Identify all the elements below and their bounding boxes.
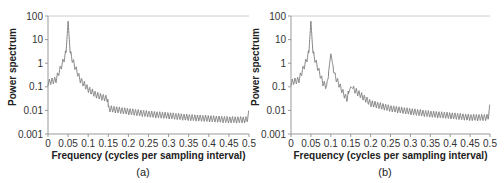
x-tick-label: 0.5	[242, 138, 256, 149]
y-tick-label: 0.01	[24, 105, 44, 116]
x-axis-label: Frequency (cycles per sampling interval)	[294, 150, 488, 161]
x-tick-label: 0.15	[99, 138, 119, 149]
x-tick-label: 0.3	[403, 138, 417, 149]
y-tick-label: 0.1	[272, 81, 286, 92]
x-tick-label: 0.05	[58, 138, 78, 149]
x-tick-label: 0.25	[381, 138, 401, 149]
y-tick-label: 10	[32, 34, 44, 45]
y-tick-label: 0.01	[267, 105, 287, 116]
y-axis-label: Power spectrum	[7, 28, 18, 106]
panel-caption: (b)	[378, 166, 391, 178]
x-tick-label: 0	[288, 138, 294, 149]
x-tick-label: 0.3	[162, 138, 176, 149]
y-tick-label: 0.1	[29, 81, 43, 92]
y-tick-label: 100	[269, 11, 286, 22]
x-tick-label: 0.45	[460, 138, 480, 149]
y-tick-label: 0.001	[261, 129, 286, 140]
figure: 0.0010.010.111010000.050.10.150.20.250.3…	[0, 0, 504, 183]
x-tick-label: 0.35	[179, 138, 199, 149]
spectrum-line	[291, 21, 490, 121]
x-tick-label: 0.1	[81, 138, 95, 149]
y-tick-label: 0.001	[18, 129, 43, 140]
x-tick-label: 0	[45, 138, 51, 149]
x-tick-label: 0.45	[219, 138, 239, 149]
spectrum-line	[48, 21, 249, 123]
x-tick-label: 0.15	[341, 138, 361, 149]
x-tick-label: 0.4	[202, 138, 216, 149]
x-tick-label: 0.5	[483, 138, 497, 149]
x-axis-label: Frequency (cycles per sampling interval)	[52, 150, 246, 161]
panel-caption: (a)	[136, 166, 149, 178]
y-tick-label: 1	[37, 58, 43, 69]
x-tick-label: 0.05	[301, 138, 321, 149]
x-tick-label: 0.25	[139, 138, 159, 149]
y-tick-label: 1	[280, 58, 286, 69]
y-tick-label: 100	[26, 11, 43, 22]
x-tick-label: 0.35	[421, 138, 441, 149]
x-tick-label: 0.1	[324, 138, 338, 149]
y-tick-label: 10	[275, 34, 287, 45]
x-tick-label: 0.2	[121, 138, 135, 149]
x-tick-label: 0.2	[364, 138, 378, 149]
x-tick-label: 0.4	[443, 138, 457, 149]
y-axis-label: Power spectrum	[250, 28, 261, 106]
